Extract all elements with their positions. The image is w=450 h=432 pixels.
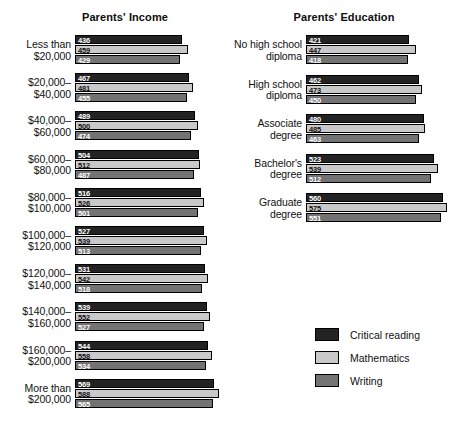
bar-critical-reading: 544 xyxy=(75,341,208,350)
bar-group: Graduate degree560575551 xyxy=(228,193,450,224)
category-label: $40,000– $60,000 xyxy=(0,115,75,138)
bar-mathematics: 552 xyxy=(75,312,210,321)
bar-value-label: 513 xyxy=(77,247,91,255)
bar-value-label: 569 xyxy=(77,380,91,388)
bar-stack: 527539513 xyxy=(75,226,228,257)
category-label: Bachelor's degree xyxy=(228,158,306,181)
legend-swatch-icon xyxy=(315,328,339,341)
bar-value-label: 429 xyxy=(77,56,91,64)
bar-value-label: 480 xyxy=(308,115,322,123)
bar-critical-reading: 462 xyxy=(306,75,419,84)
bar-stack: 467481455 xyxy=(75,73,228,104)
bar-value-label: 489 xyxy=(77,112,91,120)
bar-value-label: 565 xyxy=(77,400,91,408)
bar-writing: 450 xyxy=(306,95,416,104)
bar-value-label: 500 xyxy=(77,122,91,130)
category-label: $140,000– $160,000 xyxy=(0,306,75,329)
bar-writing: 512 xyxy=(306,174,431,183)
bar-value-label: 418 xyxy=(308,56,322,64)
bar-group: More than $200,000569588565 xyxy=(0,379,228,410)
bar-group: Less than $20,000436459429 xyxy=(0,35,228,66)
bar-writing: 565 xyxy=(75,399,213,408)
category-label: More than $200,000 xyxy=(0,383,75,406)
legend-swatch-icon xyxy=(315,351,339,364)
bar-value-label: 512 xyxy=(77,161,91,169)
bar-stack: 421447418 xyxy=(306,35,450,66)
bar-writing: 455 xyxy=(75,93,187,102)
bar-stack: 523539512 xyxy=(306,154,450,185)
bar-writing: 501 xyxy=(75,208,198,217)
chart-figure: Parents' Income Less than $20,0004364594… xyxy=(0,0,450,432)
bar-group: $40,000– $60,000489500474 xyxy=(0,111,228,142)
bar-group: $60,000– $80,000504512487 xyxy=(0,150,228,181)
bar-critical-reading: 480 xyxy=(306,114,424,123)
bar-stack: 436459429 xyxy=(75,35,228,66)
bar-value-label: 436 xyxy=(77,36,91,44)
panel-parents-education: Parents' Education No high school diplom… xyxy=(228,0,450,233)
bar-value-label: 459 xyxy=(77,46,91,54)
bar-value-label: 544 xyxy=(77,342,91,350)
bar-mathematics: 500 xyxy=(75,121,198,130)
bar-mathematics: 526 xyxy=(75,198,204,207)
bar-critical-reading: 421 xyxy=(306,35,409,44)
bar-critical-reading: 489 xyxy=(75,111,195,120)
bar-value-label: 531 xyxy=(77,265,91,273)
bar-value-label: 450 xyxy=(308,96,322,104)
bar-stack: 489500474 xyxy=(75,111,228,142)
bar-value-label: 512 xyxy=(308,175,322,183)
bar-critical-reading: 531 xyxy=(75,264,205,273)
bar-mathematics: 539 xyxy=(306,164,438,173)
bar-group: No high school diploma421447418 xyxy=(228,35,450,66)
bar-writing: 429 xyxy=(75,55,180,64)
category-label: $100,000– $120,000 xyxy=(0,230,75,253)
bar-writing: 518 xyxy=(75,284,202,293)
bar-critical-reading: 569 xyxy=(75,379,214,388)
legend-swatch-icon xyxy=(315,374,339,387)
bar-critical-reading: 516 xyxy=(75,188,201,197)
bar-writing: 487 xyxy=(75,170,194,179)
bar-value-label: 527 xyxy=(77,227,91,235)
bar-value-label: 539 xyxy=(308,165,322,173)
bar-group: Bachelor's degree523539512 xyxy=(228,154,450,185)
bar-value-label: 485 xyxy=(308,125,322,133)
bar-value-label: 455 xyxy=(77,94,91,102)
bar-critical-reading: 539 xyxy=(75,302,207,311)
bar-critical-reading: 523 xyxy=(306,154,434,163)
bar-mathematics: 447 xyxy=(306,45,416,54)
bar-value-label: 473 xyxy=(308,86,322,94)
bar-value-label: 462 xyxy=(308,76,322,84)
bar-writing: 534 xyxy=(75,361,206,370)
bar-writing: 418 xyxy=(306,55,408,64)
bar-value-label: 558 xyxy=(77,352,91,360)
bar-critical-reading: 560 xyxy=(306,193,443,202)
bar-groups-income: Less than $20,000436459429$20,000– $40,0… xyxy=(0,35,228,410)
bar-writing: 551 xyxy=(306,213,441,222)
bar-value-label: 504 xyxy=(77,151,91,159)
panel-title-education: Parents' Education xyxy=(228,0,450,26)
bar-value-label: 474 xyxy=(77,132,91,140)
bar-value-label: 421 xyxy=(308,36,322,44)
bar-value-label: 542 xyxy=(77,275,91,283)
bar-writing: 463 xyxy=(306,134,419,143)
category-label: $80,000– $100,000 xyxy=(0,192,75,215)
bar-group: $20,000– $40,000467481455 xyxy=(0,73,228,104)
bar-stack: 560575551 xyxy=(306,193,450,224)
bar-value-label: 523 xyxy=(308,155,322,163)
bar-value-label: 575 xyxy=(308,204,322,212)
bar-stack: 462473450 xyxy=(306,75,450,106)
bar-mathematics: 473 xyxy=(306,85,422,94)
category-label: $60,000– $80,000 xyxy=(0,154,75,177)
category-label: Graduate degree xyxy=(228,197,306,220)
panel-parents-income: Parents' Income Less than $20,0004364594… xyxy=(0,0,228,417)
category-label: High school diploma xyxy=(228,79,306,102)
bar-value-label: 552 xyxy=(77,313,91,321)
bar-group: $80,000– $100,000516526501 xyxy=(0,188,228,219)
category-label: $20,000– $40,000 xyxy=(0,77,75,100)
legend-item: Writing xyxy=(315,369,447,392)
bar-value-label: 588 xyxy=(77,390,91,398)
bar-writing: 513 xyxy=(75,246,201,255)
category-label: Associate degree xyxy=(228,118,306,141)
bar-writing: 474 xyxy=(75,131,191,140)
bar-group: $160,000– $200,000544558534 xyxy=(0,341,228,372)
legend-item: Critical reading xyxy=(315,323,447,346)
